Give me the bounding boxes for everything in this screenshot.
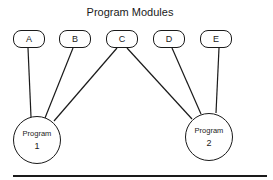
program-2: Program 2 bbox=[185, 113, 233, 161]
horizontal-rule bbox=[13, 175, 267, 177]
link-c-program1 bbox=[54, 48, 117, 121]
module-d: D bbox=[153, 30, 185, 48]
module-b: B bbox=[59, 30, 91, 48]
link-d-program2 bbox=[172, 48, 201, 114]
link-c-program2 bbox=[127, 48, 192, 119]
module-a: A bbox=[13, 30, 45, 48]
module-c: C bbox=[106, 30, 138, 48]
module-label: D bbox=[166, 34, 173, 44]
link-a-program1 bbox=[28, 48, 31, 117]
link-b-program1 bbox=[45, 48, 73, 118]
diagram-title: Program Modules bbox=[22, 6, 238, 18]
module-label: C bbox=[119, 34, 126, 44]
program-label: Program bbox=[23, 129, 52, 138]
module-label: A bbox=[26, 34, 32, 44]
program-number: 1 bbox=[34, 141, 39, 151]
program-number: 2 bbox=[206, 138, 211, 148]
program-label: Program bbox=[195, 126, 224, 135]
program-1: Program 1 bbox=[13, 116, 61, 164]
module-e: E bbox=[200, 30, 232, 48]
module-label: E bbox=[213, 34, 219, 44]
link-e-program2 bbox=[216, 48, 219, 113]
module-label: B bbox=[72, 34, 78, 44]
